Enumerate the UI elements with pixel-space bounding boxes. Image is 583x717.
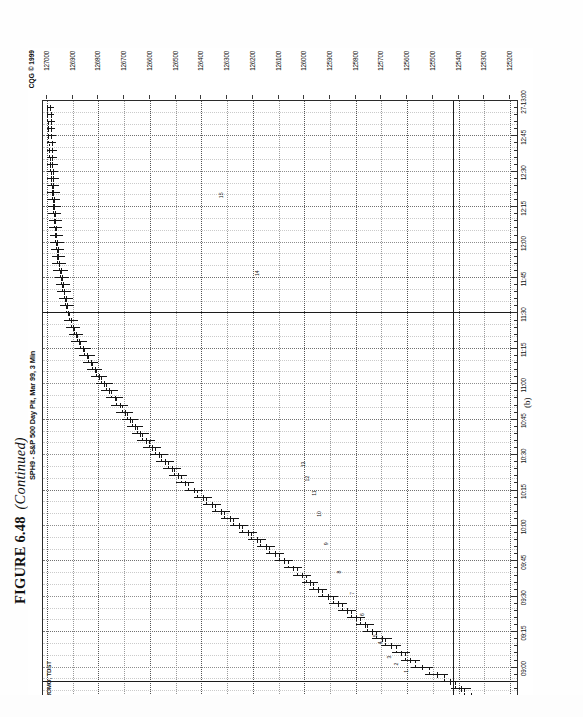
ohlc-close-tick: [242, 530, 243, 533]
ruler-tick-minor: [514, 660, 517, 661]
ohlc-bar: [55, 211, 56, 217]
ohlc-close-tick: [57, 254, 58, 257]
ohlc-open-tick: [57, 257, 58, 260]
price-tick-mark: [226, 95, 227, 99]
ohlc-bar-range: [96, 383, 113, 384]
ruler-tick-major: [511, 348, 517, 349]
vertical-gridline-minor: [43, 442, 517, 443]
ohlc-bar-range: [212, 511, 230, 512]
vertical-gridline-minor: [43, 372, 517, 373]
ruler-tick-major: [511, 596, 517, 597]
ohlc-bar: [338, 601, 339, 607]
ohlc-bar-range: [143, 447, 161, 448]
ohlc-bar: [146, 438, 147, 444]
price-tick-mark: [329, 95, 330, 99]
chart-annotation: 5: [372, 634, 378, 637]
ohlc-close-tick: [80, 346, 81, 349]
ruler-tick-minor: [514, 235, 517, 236]
chart-header: SPH9 - S&P 500 Day Pit, Mar 99, 3 Min CQ…: [28, 48, 42, 708]
ohlc-bar: [54, 197, 55, 203]
ohlc-bar: [461, 686, 462, 692]
ohlc-bar-range: [137, 440, 155, 441]
vertical-gridline-minor: [43, 348, 517, 349]
vertical-gridline-minor: [43, 159, 517, 160]
price-tick-label: 125200: [506, 51, 513, 71]
ohlc-open-tick: [251, 533, 252, 536]
ohlc-bar-range: [91, 376, 108, 377]
horizontal-gridline: [433, 101, 434, 705]
price-tick-label: 125400: [454, 51, 461, 71]
ohlc-close-tick: [149, 445, 150, 448]
ohlc-bar: [52, 141, 53, 147]
ohlc-bar: [120, 403, 121, 409]
price-tick-mark: [406, 95, 407, 99]
ohlc-open-tick: [342, 604, 343, 607]
ohlc-close-tick: [288, 566, 289, 569]
ruler-tick-major: [511, 312, 517, 313]
ruler-tick-minor: [514, 497, 517, 498]
price-axis: 1270001269001268001267001266001265001264…: [42, 50, 518, 99]
ruler-tick-minor: [514, 376, 517, 377]
ohlc-open-tick: [322, 590, 323, 593]
ruler-tick-minor: [514, 128, 517, 129]
ruler-tick-minor: [514, 121, 517, 122]
price-tick-mark: [380, 95, 381, 99]
ohlc-open-tick: [149, 441, 150, 444]
ohlc-bar: [58, 247, 59, 253]
vertical-gridline-minor: [43, 619, 517, 620]
ohlc-open-tick: [269, 547, 270, 550]
vertical-reference-line: [43, 312, 517, 313]
ruler-tick-minor: [514, 157, 517, 158]
ohlc-open-tick: [429, 668, 430, 671]
ohlc-open-tick: [66, 306, 67, 309]
ruler-tick-minor: [514, 298, 517, 299]
ohlc-close-tick: [181, 481, 182, 484]
ohlc-open-tick: [88, 356, 89, 359]
price-tick-label: 126200: [248, 51, 255, 71]
price-tick-label: 126800: [94, 51, 101, 71]
ohlc-close-tick: [84, 353, 85, 356]
vertical-gridline-minor: [43, 466, 517, 467]
ohlc-open-tick: [51, 179, 52, 182]
scan-margin: [0, 695, 583, 717]
ruler-tick-minor: [514, 178, 517, 179]
ohlc-close-tick: [279, 558, 280, 561]
ohlc-bar: [52, 162, 53, 168]
time-tick-label: 12:30: [520, 165, 527, 180]
chart-annotation: 10: [316, 511, 322, 517]
ruler-tick-minor: [514, 213, 517, 214]
ohlc-open-tick: [49, 144, 50, 147]
ohlc-open-tick: [62, 285, 63, 288]
ohlc-bar-range: [87, 369, 102, 370]
ohlc-close-tick: [47, 112, 48, 115]
ruler-tick-minor: [514, 433, 517, 434]
ohlc-close-tick: [52, 197, 53, 200]
ruler-tick-minor: [514, 192, 517, 193]
ruler-tick-minor: [514, 397, 517, 398]
ohlc-close-tick: [48, 141, 49, 144]
ruler-tick-minor: [514, 575, 517, 576]
ohlc-bar-range: [48, 213, 61, 214]
ohlc-open-tick: [71, 321, 72, 324]
ohlc-open-tick: [279, 554, 280, 557]
ohlc-open-tick: [84, 349, 85, 352]
ruler-tick-minor: [514, 355, 517, 356]
ohlc-close-tick: [59, 268, 60, 271]
ohlc-close-tick: [53, 211, 54, 214]
ohlc-close-tick: [385, 643, 386, 646]
price-tick-mark: [509, 95, 510, 99]
ohlc-bar-range: [194, 497, 212, 498]
ohlc-open-tick: [96, 370, 97, 373]
ruler-tick-major: [511, 667, 517, 668]
ruler-tick-minor: [514, 426, 517, 427]
horizontal-gridline: [176, 101, 177, 705]
ohlc-open-tick: [396, 646, 397, 649]
ohlc-open-tick: [55, 236, 56, 239]
ohlc-open-tick: [242, 526, 243, 529]
horizontal-gridline: [253, 101, 254, 705]
ohlc-close-tick: [116, 403, 117, 406]
ohlc-open-tick: [50, 165, 51, 168]
ruler-tick-minor: [514, 270, 517, 271]
ohlc-open-tick: [360, 618, 361, 621]
chart-annotation: 6: [359, 613, 365, 616]
